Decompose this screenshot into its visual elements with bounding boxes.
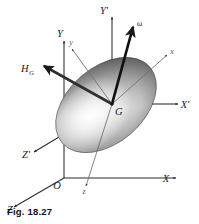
label-Xprime: X' [180, 99, 190, 110]
label-G: G [115, 106, 123, 117]
label-omega: ω [137, 19, 142, 28]
label-Yprime: Y' [100, 5, 109, 16]
figure-diagram: Y' ω Y y x H G X' G Z' O z X Z [0, 0, 199, 224]
label-X-fixed: X [162, 173, 170, 184]
center-of-mass-point [110, 102, 113, 105]
label-y-body: y [68, 38, 73, 47]
label-H-subscript: G [29, 69, 34, 77]
label-Y-fixed: Y [57, 28, 64, 39]
rigid-body-ellipsoid [37, 38, 174, 171]
label-x-body: x [169, 47, 174, 56]
label-Zprime: Z' [22, 149, 31, 160]
label-O-origin: O [53, 180, 61, 191]
figure-container: Y' ω Y y x H G X' G Z' O z X Z Fig. 18.2… [0, 0, 199, 224]
label-z-body: z [81, 187, 86, 196]
figure-caption: Fig. 18.27 [7, 206, 52, 217]
label-HG: H G [20, 63, 34, 77]
